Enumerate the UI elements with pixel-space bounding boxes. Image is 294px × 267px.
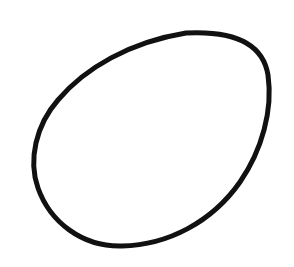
drawing-canvas	[0, 0, 294, 267]
